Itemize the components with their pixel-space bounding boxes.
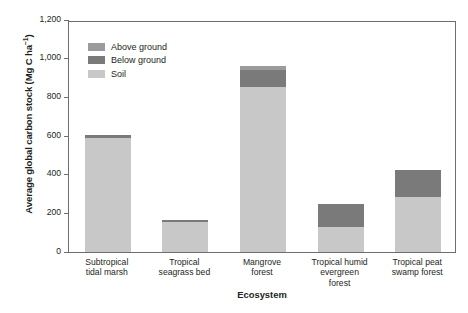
legend-swatch	[88, 56, 105, 64]
y-axis-title-tail: )	[23, 35, 34, 38]
bar-group[interactable]	[395, 170, 441, 252]
y-axis-tick-label: 0	[56, 246, 61, 256]
bar-segment[interactable]	[240, 70, 286, 86]
x-axis-label: Tropicalseagrass bed	[141, 257, 227, 278]
bar-segment[interactable]	[240, 87, 286, 252]
bar-segment[interactable]	[85, 138, 131, 252]
x-axis-label-line: forest	[219, 267, 305, 277]
bar-segment[interactable]	[395, 170, 441, 197]
legend-swatch	[88, 70, 105, 78]
bar-segment[interactable]	[318, 204, 364, 227]
y-axis-tick-label: 200	[47, 207, 61, 217]
y-axis-tick-mark	[64, 20, 69, 21]
x-axis-label-line: forest	[297, 278, 383, 288]
x-axis-label-line: Tropical	[141, 257, 227, 267]
legend-label: Above ground	[111, 42, 167, 52]
y-axis-title: Average global carbon stock (Mg C ha−1)	[22, 4, 34, 244]
bar-group[interactable]	[318, 204, 364, 252]
bar-segment[interactable]	[395, 197, 441, 252]
x-axis-label-line: Tropical peat	[374, 257, 460, 267]
legend-label: Soil	[111, 69, 126, 79]
x-axis-label-line: evergreen	[297, 267, 383, 277]
x-axis-label: Tropical peatswamp forest	[374, 257, 460, 278]
x-axis-label-line: Mangrove	[219, 257, 305, 267]
y-axis-title-superscript: −1	[22, 38, 29, 45]
legend-item: Below ground	[88, 55, 167, 67]
x-axis-label-line: seagrass bed	[141, 267, 227, 277]
chart-legend: Above groundBelow groundSoil	[88, 41, 167, 82]
y-axis-tick-label: 600	[47, 130, 61, 140]
x-axis-label-line: Subtropical	[64, 257, 150, 267]
x-axis-label: Mangroveforest	[219, 257, 305, 278]
legend-label: Below ground	[111, 55, 166, 65]
bar-group[interactable]	[162, 220, 208, 252]
legend-item: Above ground	[88, 41, 167, 53]
x-axis-label: Subtropicaltidal marsh	[64, 257, 150, 278]
plot-area: 02004006008001,0001,200 Above groundBelo…	[68, 21, 456, 253]
legend-swatch	[88, 43, 105, 51]
x-axis-label-line: Tropical humid	[297, 257, 383, 267]
x-axis-label-line: swamp forest	[374, 267, 460, 277]
bar-segment[interactable]	[85, 135, 131, 138]
bar-group[interactable]	[240, 66, 286, 252]
bar-group[interactable]	[85, 135, 131, 252]
x-axis-title: Ecosystem	[68, 289, 456, 300]
bar-segment[interactable]	[318, 227, 364, 252]
legend-item: Soil	[88, 68, 167, 80]
y-axis-title-main: Average global carbon stock (Mg C ha	[23, 45, 34, 214]
y-axis-tick-label: 1,200	[39, 14, 61, 24]
y-axis-tick-label: 1,000	[39, 52, 61, 62]
bar-segment[interactable]	[162, 220, 208, 222]
y-axis-tick-label: 800	[47, 91, 61, 101]
x-axis-label-line: tidal marsh	[64, 267, 150, 277]
y-axis-tick-label: 400	[47, 168, 61, 178]
x-axis-label: Tropical humidevergreenforest	[297, 257, 383, 288]
bar-segment[interactable]	[162, 222, 208, 252]
carbon-stock-bar-chart: Average global carbon stock (Mg C ha−1) …	[0, 0, 468, 313]
bar-segment[interactable]	[240, 66, 286, 70]
